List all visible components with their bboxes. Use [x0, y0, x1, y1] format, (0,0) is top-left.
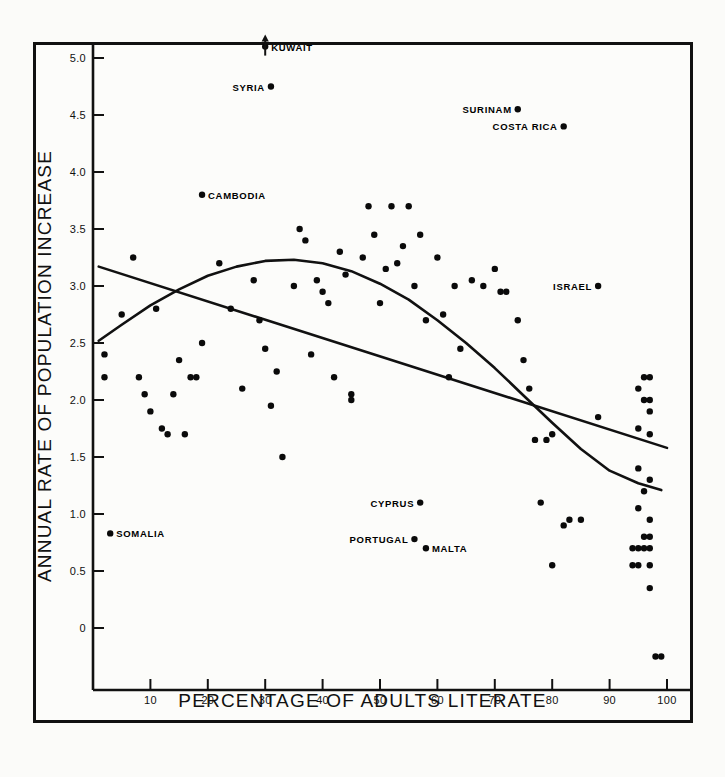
data-point: [388, 203, 394, 209]
figure-canvas: 00.51.01.52.02.53.03.54.04.55.0 10203040…: [0, 0, 725, 777]
point-label-malta: MALTA: [432, 543, 467, 554]
data-point: [170, 391, 176, 397]
data-point: [647, 397, 653, 403]
data-point: [635, 425, 641, 431]
data-point: [635, 545, 641, 551]
data-point: [497, 289, 503, 295]
data-point: [164, 431, 170, 437]
labeled-data-point: [560, 123, 566, 129]
labeled-data-point: [423, 545, 429, 551]
data-point: [538, 499, 544, 505]
data-point: [251, 277, 257, 283]
point-label-surinam: SURINAM: [463, 104, 512, 115]
data-point: [325, 300, 331, 306]
data-point: [641, 374, 647, 380]
x-axis-title: PERCENTAGE OF ADULTS LITERATE: [0, 690, 725, 712]
data-point: [273, 368, 279, 374]
point-label-cyprus: CYPRUS: [370, 497, 414, 508]
point-label-costa-rica: COSTA RICA: [493, 121, 558, 132]
data-point: [256, 317, 262, 323]
data-point: [641, 545, 647, 551]
data-point: [153, 306, 159, 312]
data-point: [216, 260, 222, 266]
data-point: [560, 522, 566, 528]
data-point: [130, 254, 136, 260]
data-point: [647, 408, 653, 414]
data-point: [296, 226, 302, 232]
data-point: [457, 346, 463, 352]
data-point: [101, 374, 107, 380]
data-point: [360, 254, 366, 260]
data-point: [400, 243, 406, 249]
data-point: [658, 653, 664, 659]
data-point: [480, 283, 486, 289]
data-point: [469, 277, 475, 283]
y-tick-label: 5.0: [40, 52, 86, 64]
labeled-data-point: [411, 536, 417, 542]
data-point: [578, 517, 584, 523]
labeled-data-points: [107, 43, 601, 551]
data-point: [520, 357, 526, 363]
data-points: [101, 203, 664, 660]
labeled-data-point: [199, 192, 205, 198]
data-point: [348, 397, 354, 403]
data-point: [262, 346, 268, 352]
data-point: [629, 562, 635, 568]
data-point: [302, 237, 308, 243]
data-point: [566, 517, 572, 523]
data-point: [595, 414, 601, 420]
data-point: [629, 545, 635, 551]
data-point: [187, 374, 193, 380]
data-point: [159, 425, 165, 431]
y-axis-title: ANNUAL RATE OF POPULATION INCREASE: [34, 116, 56, 616]
data-point: [647, 534, 653, 540]
data-point: [348, 391, 354, 397]
up-arrow-head-icon: [262, 35, 269, 42]
data-point: [268, 403, 274, 409]
data-point: [635, 385, 641, 391]
data-point: [532, 437, 538, 443]
data-point: [337, 249, 343, 255]
data-point: [141, 391, 147, 397]
data-point: [526, 385, 532, 391]
data-point: [176, 357, 182, 363]
data-point: [503, 289, 509, 295]
point-label-somalia: SOMALIA: [116, 528, 165, 539]
data-point: [377, 300, 383, 306]
data-point: [394, 260, 400, 266]
data-point: [647, 374, 653, 380]
data-point: [549, 431, 555, 437]
data-point: [291, 283, 297, 289]
data-point: [101, 351, 107, 357]
data-point: [641, 397, 647, 403]
data-point: [647, 562, 653, 568]
data-point: [417, 232, 423, 238]
data-point: [647, 585, 653, 591]
data-point: [647, 545, 653, 551]
data-point: [119, 311, 125, 317]
data-point: [647, 431, 653, 437]
y-tick-label: 0: [40, 622, 86, 634]
data-point: [411, 283, 417, 289]
data-point: [647, 517, 653, 523]
labeled-data-point: [515, 106, 521, 112]
data-point: [635, 505, 641, 511]
point-label-syria: SYRIA: [232, 81, 265, 92]
data-point: [515, 317, 521, 323]
data-point: [543, 437, 549, 443]
data-point: [635, 562, 641, 568]
linear-regression-line: [99, 267, 667, 448]
data-point: [308, 351, 314, 357]
data-point: [492, 266, 498, 272]
data-point: [641, 534, 647, 540]
data-point: [440, 311, 446, 317]
data-point: [239, 385, 245, 391]
data-point: [549, 562, 555, 568]
data-point: [228, 306, 234, 312]
data-point: [647, 477, 653, 483]
scatter-plot-svg: [0, 0, 725, 777]
data-point: [383, 266, 389, 272]
point-label-portugal: PORTUGAL: [350, 534, 409, 545]
data-point: [319, 289, 325, 295]
y-axis-tick-marks: [93, 58, 104, 628]
